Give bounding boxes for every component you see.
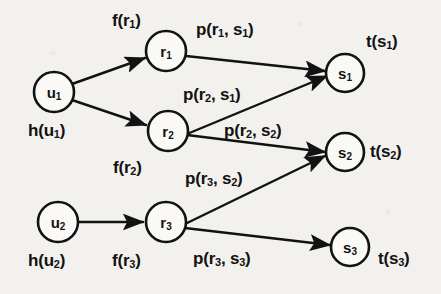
node-label-s3: s3 xyxy=(343,240,357,255)
label-h-u1: h(u1) xyxy=(28,122,65,139)
edge-u1-to-r2 xyxy=(72,100,146,125)
node-label-u1: u1 xyxy=(47,85,62,100)
edge-u1-to-r1 xyxy=(72,58,145,84)
label-f-r3: f(r3) xyxy=(112,252,141,269)
edge-r1-to-s1 xyxy=(186,56,325,71)
node-label-r1: r1 xyxy=(160,44,171,59)
label-f-r1: f(r1) xyxy=(112,12,141,29)
node-label-r2: r2 xyxy=(162,124,173,139)
label-p-r2-s1: p(r2, s1) xyxy=(183,86,241,103)
node-label-r3: r3 xyxy=(160,215,171,230)
label-h-u2: h(u2) xyxy=(28,252,65,269)
node-label-u2: u2 xyxy=(51,215,66,230)
label-t-s1: t(s1) xyxy=(366,33,397,50)
label-t-s3: t(s3) xyxy=(378,250,409,267)
edge-r3-to-s3 xyxy=(185,228,330,245)
label-p-r1-s1: p(r1, s1) xyxy=(196,21,254,38)
label-t-s2: t(s2) xyxy=(370,143,401,160)
diagram-canvas: u1 u2 r1 r2 r3 s1 s2 s3 f(r1) p(r1, s1) … xyxy=(0,0,441,294)
label-p-r2-s2: p(r2, s2) xyxy=(224,122,282,139)
node-label-s2: s2 xyxy=(338,145,352,160)
edge-r3-to-s2 xyxy=(185,156,325,224)
node-label-s1: s1 xyxy=(338,66,352,81)
label-f-r2: f(r2) xyxy=(113,159,142,176)
label-p-r3-s2: p(r3, s2) xyxy=(185,170,243,187)
label-p-r3-s3: p(r3, s3) xyxy=(193,250,251,267)
